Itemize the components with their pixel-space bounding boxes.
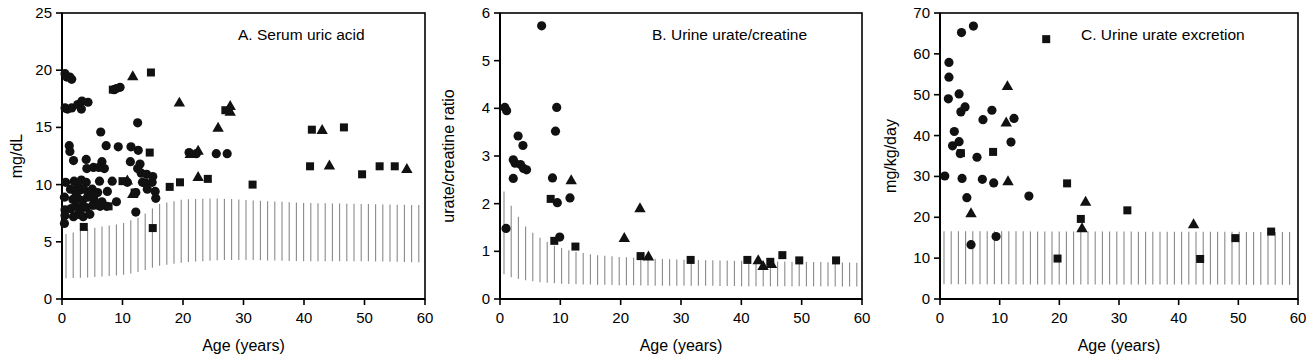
data-point-circle xyxy=(989,178,998,187)
y-tick-label: 5 xyxy=(482,52,490,69)
series-square xyxy=(957,35,1275,263)
data-point-square xyxy=(1267,228,1275,236)
x-tick-label: 20 xyxy=(612,309,629,326)
data-point-circle xyxy=(114,142,123,151)
y-tick-label: 1 xyxy=(482,242,490,259)
data-point-square xyxy=(795,256,803,264)
x-tick-label: 50 xyxy=(1230,309,1247,326)
data-point-square xyxy=(743,256,751,264)
y-tick-label: 25 xyxy=(35,4,52,21)
data-point-circle xyxy=(502,106,511,115)
data-point-circle xyxy=(950,127,959,136)
y-tick-label: 10 xyxy=(913,249,930,266)
data-point-circle xyxy=(501,224,510,233)
data-point-circle xyxy=(151,194,160,203)
data-point-square xyxy=(766,258,774,266)
data-point-circle xyxy=(978,115,987,124)
y-tick-label: 60 xyxy=(913,45,930,62)
panel-b-plot: 01234560102030405060B. Urine urate/creat… xyxy=(434,0,874,359)
x-tick-label: 0 xyxy=(496,309,504,326)
data-point-circle xyxy=(103,187,112,196)
panel-title: C. Urine urate excretion xyxy=(1081,26,1245,43)
x-tick-label: 10 xyxy=(991,309,1008,326)
data-point-triangle xyxy=(174,97,185,107)
data-point-square xyxy=(1196,255,1204,263)
y-tick-label: 0 xyxy=(44,290,52,307)
x-tick-label: 40 xyxy=(733,309,750,326)
x-axis-ticks: 0102030405060 xyxy=(496,299,871,326)
data-point-square xyxy=(1231,234,1239,242)
data-point-circle xyxy=(60,193,69,202)
data-point-circle xyxy=(978,175,987,184)
data-point-circle xyxy=(522,165,531,174)
three-panel-scatter-figure: 05101520250102030405060A. Serum uric aci… xyxy=(0,0,1310,359)
x-tick-label: 30 xyxy=(235,309,252,326)
x-axis-ticks: 0102030405060 xyxy=(58,299,434,326)
data-point-circle xyxy=(548,173,557,182)
data-point-circle xyxy=(957,174,966,183)
data-point-square xyxy=(358,170,366,178)
y-tick-label: 50 xyxy=(913,86,930,103)
data-point-triangle xyxy=(1002,175,1013,185)
x-tick-label: 0 xyxy=(58,309,66,326)
data-point-square xyxy=(376,162,384,170)
data-point-circle xyxy=(212,149,221,158)
data-point-circle xyxy=(552,103,561,112)
data-point-square xyxy=(1063,179,1071,187)
data-points-layer xyxy=(60,68,413,232)
data-points-layer xyxy=(940,21,1275,262)
x-tick-label: 30 xyxy=(1111,309,1128,326)
panel-b: 01234560102030405060B. Urine urate/creat… xyxy=(434,0,874,359)
data-point-circle xyxy=(143,185,152,194)
data-point-square xyxy=(131,189,139,197)
y-axis-ticks: 0510152025 xyxy=(35,4,62,307)
data-point-square xyxy=(149,224,157,232)
panel-a-plot: 05101520250102030405060A. Serum uric aci… xyxy=(0,0,440,359)
data-point-square xyxy=(340,123,348,131)
data-point-square xyxy=(308,126,316,134)
data-point-square xyxy=(146,149,154,157)
x-tick-label: 0 xyxy=(936,309,944,326)
data-point-circle xyxy=(1006,138,1015,147)
data-point-triangle xyxy=(324,160,335,170)
plot-frame xyxy=(940,13,1298,299)
y-axis-ticks: 0123456 xyxy=(482,4,500,307)
x-tick-label: 10 xyxy=(114,309,131,326)
data-point-triangle xyxy=(127,70,138,80)
data-point-circle xyxy=(518,141,527,150)
data-point-circle xyxy=(537,21,546,30)
x-tick-label: 30 xyxy=(673,309,690,326)
data-point-circle xyxy=(944,94,953,103)
data-point-square xyxy=(249,181,257,189)
panel-a: 05101520250102030405060A. Serum uric aci… xyxy=(0,0,440,359)
data-point-circle xyxy=(85,210,94,219)
data-point-square xyxy=(391,162,399,170)
data-point-circle xyxy=(966,240,975,249)
data-point-circle xyxy=(77,104,86,113)
data-point-circle xyxy=(957,28,966,37)
data-point-triangle xyxy=(1076,222,1087,232)
data-point-square xyxy=(90,191,98,199)
data-point-square xyxy=(550,237,558,245)
data-point-circle xyxy=(134,146,143,155)
data-point-circle xyxy=(69,156,78,165)
series-triangle xyxy=(965,80,1199,232)
data-point-square xyxy=(547,195,555,203)
y-tick-label: 0 xyxy=(482,290,490,307)
data-point-circle xyxy=(126,157,135,166)
y-tick-label: 10 xyxy=(35,176,52,193)
data-point-circle xyxy=(60,211,69,220)
data-point-square xyxy=(119,177,127,185)
x-tick-label: 40 xyxy=(296,309,313,326)
data-point-circle xyxy=(969,21,978,30)
data-point-circle xyxy=(131,207,140,216)
panel-title: A. Serum uric acid xyxy=(238,26,365,43)
series-circle xyxy=(940,21,1033,249)
data-point-square xyxy=(306,162,314,170)
x-tick-label: 50 xyxy=(793,309,810,326)
x-axis-label: Age (years) xyxy=(640,337,723,354)
data-point-square xyxy=(147,68,155,76)
y-tick-label: 2 xyxy=(482,195,490,212)
data-point-triangle xyxy=(192,171,203,181)
data-point-circle xyxy=(83,98,92,107)
